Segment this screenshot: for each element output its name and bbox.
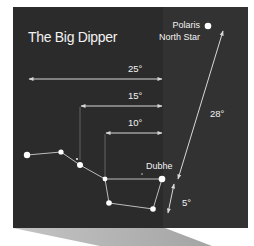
- star-merak-icon: [150, 206, 156, 212]
- big-dipper-diagram: The Big Dipper Polaris North Star 25° 15…: [0, 0, 254, 246]
- label-15-deg: 15°: [128, 90, 143, 101]
- label-10-deg: 10°: [128, 117, 143, 128]
- star-alcor-icon: [76, 158, 78, 160]
- star-alkaid-icon: [24, 152, 30, 158]
- label-28-deg: 28°: [210, 108, 225, 119]
- star-alioth-icon: [77, 162, 83, 168]
- diagram-title: The Big Dipper: [28, 29, 118, 45]
- north-star-label: North Star: [159, 32, 200, 42]
- shadow-plane: [13, 228, 212, 246]
- label-25-deg: 25°: [128, 63, 143, 74]
- star-dubhe-icon: [159, 176, 166, 183]
- star-mizar-icon: [58, 149, 63, 154]
- label-5-deg: 5°: [182, 197, 191, 208]
- polaris-label: Polaris: [172, 20, 200, 30]
- star-phecda-icon: [106, 200, 112, 206]
- star-polaris-icon: [205, 23, 212, 30]
- dubhe-label: Dubhe: [146, 161, 173, 171]
- faint-star: [141, 173, 143, 175]
- star-megrez-icon: [103, 177, 108, 182]
